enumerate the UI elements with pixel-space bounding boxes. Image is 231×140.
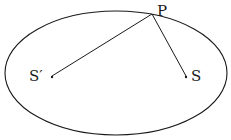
- label-s: S: [191, 67, 201, 85]
- focus-s-prime-dot: [51, 76, 53, 78]
- ellipse-diagram: P S′ S: [0, 0, 231, 140]
- segment-p-s-prime: [52, 14, 152, 76]
- segment-p-s: [152, 14, 186, 76]
- label-p: P: [157, 2, 167, 20]
- label-s-prime: S′: [29, 67, 43, 85]
- focus-s-dot: [185, 76, 187, 78]
